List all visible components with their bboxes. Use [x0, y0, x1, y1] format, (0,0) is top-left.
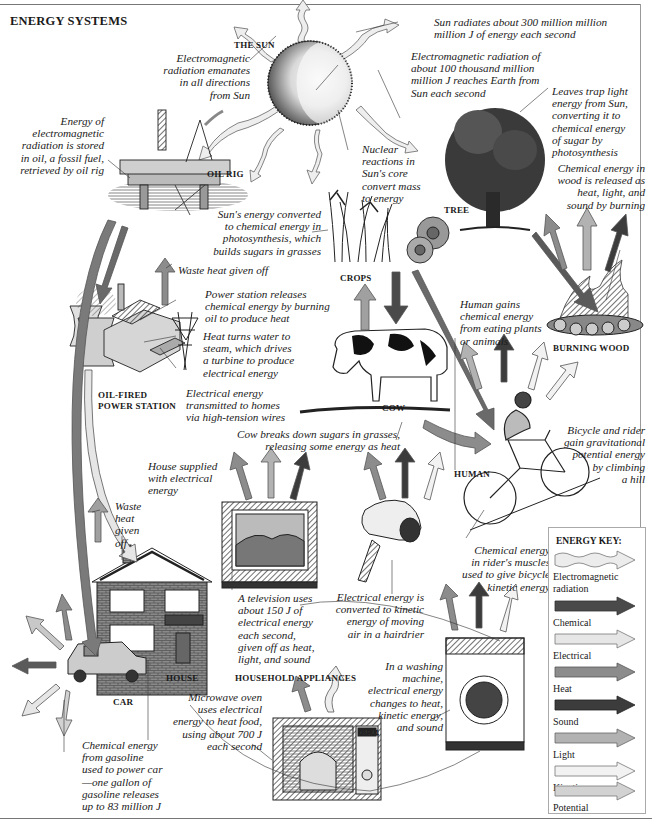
label-the-sun: THE SUN	[234, 40, 275, 50]
note-bicycle-potential: Bicycle and rider gain gravitational pot…	[535, 424, 645, 485]
key-item-electrical: Electrical	[553, 629, 641, 661]
note-car-gasoline: Chemical energy from gasoline used to po…	[82, 739, 182, 812]
key-item-light: Light	[553, 728, 641, 760]
note-waste-heat-station: Waste heat given off	[178, 264, 318, 276]
key-label-sound: Sound	[553, 716, 641, 727]
note-em-emanates: Electromagnetic radiation emanates in al…	[140, 52, 250, 101]
label-tree: TREE	[444, 205, 469, 215]
label-human: HUMAN	[454, 469, 490, 479]
key-label-electrical: Electrical	[553, 650, 641, 661]
note-wood-released: Chemical energy in wood is released as h…	[530, 162, 645, 211]
label-car: CAR	[113, 697, 133, 707]
energy-key-title: ENERGY KEY:	[556, 536, 622, 546]
key-item-heat: Heat	[553, 662, 641, 694]
key-label-radiation: radiation	[553, 583, 641, 594]
note-photosynthesis-grasses: Sun's energy converted to chemical energ…	[180, 208, 321, 257]
label-oil-rig: OIL RIG	[207, 169, 244, 179]
key-label-potential: Potential	[553, 802, 641, 813]
heat-arrow-icon	[553, 662, 637, 682]
key-label-light: Light	[553, 749, 641, 760]
note-power-station-releases: Power station releases chemical energy b…	[205, 288, 335, 325]
note-washing-machine: In a washing machine, electrical energy …	[333, 660, 443, 733]
note-house-supplied: House supplied with electrical energy	[148, 460, 238, 497]
sun-sphere	[268, 41, 353, 125]
key-label-electromagnetic: Electromagnetic	[553, 571, 641, 582]
light-arrow-icon	[553, 728, 637, 748]
note-human-gains: Human gains chemical energy from eating …	[460, 298, 570, 347]
note-transmitted: Electrical energy transmitted to homes v…	[186, 387, 316, 424]
television	[222, 502, 317, 588]
note-oil-stored: Energy of electromagnetic radiation is s…	[4, 115, 104, 176]
key-label-chemical: Chemical	[553, 617, 641, 628]
label-power-station: OIL-FIRED POWER STATION	[98, 390, 176, 412]
energy-key: ENERGY KEY: Electromagnetic radiation Ch…	[548, 527, 646, 814]
note-cow-breaks-down: Cow breaks down sugars in grasses, relea…	[220, 428, 400, 452]
note-steam-turbine: Heat turns water to steam, which drives …	[203, 330, 333, 379]
key-item-electromagnetic: Electromagnetic radiation	[553, 550, 641, 594]
washing-machine	[446, 638, 524, 750]
wavy-arrow-icon	[553, 550, 637, 570]
note-nuclear: Nuclear reactions in Sun's core convert …	[362, 143, 442, 204]
key-label-heat: Heat	[553, 683, 641, 694]
label-power-station-line2: POWER STATION	[98, 401, 176, 412]
key-item-chemical: Chemical	[553, 596, 641, 628]
note-leaves-trap: Leaves trap light energy from Sun, conve…	[552, 85, 647, 158]
note-rider-muscles: Chemical energy in rider's muscles used …	[450, 544, 550, 593]
page-title: ENERGY SYSTEMS	[10, 14, 127, 29]
electrical-arrow-icon	[553, 629, 637, 649]
potential-arrow-icon	[553, 781, 637, 801]
label-house: HOUSE	[166, 673, 199, 683]
label-cow: COW	[382, 403, 405, 413]
key-item-sound: Sound	[553, 695, 641, 727]
note-waste-heat-house: Waste heat given off	[115, 500, 165, 549]
note-sun-radiates: Sun radiates about 300 million million m…	[434, 16, 649, 40]
kinetic-arrow-icon	[553, 761, 637, 781]
key-item-potential: Potential	[553, 781, 641, 813]
hairdrier	[358, 500, 421, 582]
chemical-arrow-icon	[553, 596, 637, 616]
note-hairdrier: Electrical energy is converted to kineti…	[330, 591, 424, 640]
note-em-reaches-earth: Electromagnetic radiation of about 100 t…	[411, 50, 571, 99]
oil-rig	[108, 110, 248, 215]
label-power-station-line1: OIL-FIRED	[98, 390, 176, 401]
sound-arrow-icon	[553, 695, 637, 715]
label-crops: CROPS	[340, 273, 372, 283]
